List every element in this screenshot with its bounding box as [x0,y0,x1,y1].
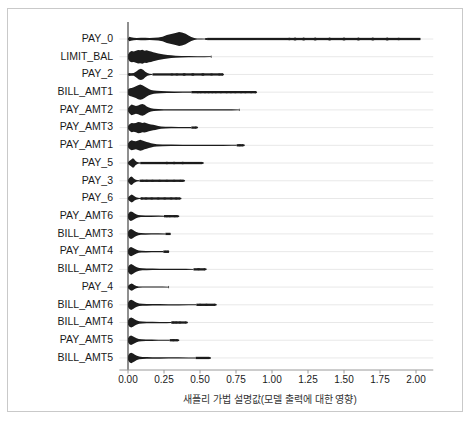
y-axis-label-PAY_AMT3: PAY_AMT3 [60,120,113,132]
outlier-PAY_5-6 [195,162,198,164]
violin-PAY_AMT1 [128,140,237,151]
outlier-BILL_AMT5-1 [203,357,206,359]
outlier-BILL_AMT6-1 [205,304,208,306]
outlier-PAY_AMT6-3 [176,215,179,217]
violin-PAY_0 [128,32,207,46]
outlier-BILL_AMT1-2 [203,91,206,93]
violin-PAY_3 [128,177,140,186]
outlier-PAY_2-7 [221,73,224,75]
outlier-PAY_2-4 [201,73,204,75]
x-tick-label-6: 1.50 [334,374,354,385]
outlier-PAY_5-0 [156,162,159,164]
outlier-PAY_0-7 [342,37,345,40]
shap-summary-figure: 0.000.250.500.751.001.251.501.752.00 PAY… [0,0,472,423]
violin-BILL_AMT5 [128,353,196,364]
outlier-BILL_AMT1-13 [254,91,257,93]
y-axis-label-PAY_5: PAY_5 [82,156,113,168]
violin-PAY_AMT3 [128,122,191,133]
outlier-BILL_AMT1-3 [207,91,210,93]
violin-LIMIT_BAL [128,50,211,64]
outlier-BILL_AMT1-7 [225,91,228,93]
y-axis-label-PAY_3: PAY_3 [82,174,113,186]
outlier-PAY_2-5 [210,73,213,75]
outlier-BILL_AMT1-8 [229,91,232,93]
outlier-PAY_6-4 [163,197,166,199]
outlier-BILL_AMT6-0 [198,304,201,306]
violin-rows-group [128,32,421,363]
x-tick-label-0: 0.00 [118,374,138,385]
outlier-PAY_2-3 [191,73,194,75]
outlier-BILL_AMT6-2 [213,304,216,306]
outlier-PAY_5-4 [181,162,184,164]
y-axis-label-BILL_AMT2: BILL_AMT2 [58,262,114,274]
violin-BILL_AMT1 [128,85,191,100]
outlier-PAY_0-1 [284,38,287,40]
outlier-BILL_AMT4-3 [185,322,188,324]
outlier-PAY_0-11 [397,38,400,41]
outlier-PAY_6-2 [150,197,153,199]
violin-PAY_5 [128,158,140,167]
outlier-PAY_2-0 [170,73,173,75]
violin-BILL_AMT6 [128,300,196,310]
outlier-PAY_0-12 [408,38,411,40]
outlier-PAY_6-7 [178,197,181,199]
outlier-BILL_AMT1-11 [244,91,247,93]
outlier-PAY_0-5 [314,37,317,40]
outlier-PAY_3-3 [158,180,161,182]
outlier-PAY_5-3 [172,162,175,164]
outlier-PAY_5-1 [159,162,162,164]
outlier-BILL_AMT4-2 [178,322,181,324]
outlier-PAY_0-10 [386,37,389,40]
outlier-PAY_2-2 [182,73,185,75]
outlier-PAY_6-5 [170,197,173,199]
y-axis-label-LIMIT_BAL: LIMIT_BAL [60,50,113,62]
outlier-BILL_AMT1-10 [239,91,242,93]
x-tick-label-1: 0.25 [154,374,174,385]
violin-PAY_AMT6 [128,211,164,220]
violin-PAY_6 [128,195,141,203]
outlier-BILL_AMT2-0 [197,268,200,270]
outlier-BILL_AMT2-1 [203,268,206,270]
y-axis-label-PAY_AMT4: PAY_AMT4 [60,244,113,256]
outlier-BILL_AMT1-6 [219,91,222,93]
y-axis-label-PAY_6: PAY_6 [82,191,113,203]
outlier-PAY_AMT5-0 [172,339,175,341]
violin-BILL_AMT4 [128,318,171,328]
x-tick-label-3: 0.75 [226,374,246,385]
violin-tail-PAY_AMT2 [239,109,240,111]
y-axis-label-BILL_AMT5: BILL_AMT5 [58,351,114,363]
outlier-BILL_AMT1-5 [214,91,217,93]
violin-BILL_AMT3 [128,229,165,239]
outlier-PAY_0-0 [205,38,208,40]
outlier-PAY_6-6 [175,197,178,199]
outlier-PAY_AMT1-0 [238,144,241,146]
outlier-PAY_5-5 [188,162,191,164]
violin-tail-PAY_5 [140,162,202,164]
x-tick-label-2: 0.50 [190,374,210,385]
outlier-BILL_AMT1-12 [249,91,252,93]
outlier-PAY_0-6 [328,37,331,40]
x-axis-group: 0.000.250.500.751.001.251.501.752.00 [118,370,433,385]
violin-tail-PAY_4 [168,286,169,288]
outlier-BILL_AMT3-0 [167,233,170,235]
outlier-PAY_3-0 [141,180,144,182]
y-axis-label-BILL_AMT4: BILL_AMT4 [58,315,114,327]
y-axis-label-PAY_AMT5: PAY_AMT5 [60,333,113,345]
outlier-BILL_AMT4-1 [175,322,178,324]
outlier-BILL_AMT5-2 [208,357,211,359]
x-tick-label-7: 1.75 [370,374,390,385]
outlier-BILL_AMT1-4 [211,91,214,93]
outlier-PAY_5-2 [165,162,168,164]
y-axis-label-PAY_0: PAY_0 [82,32,113,44]
violin-tail-BILL_AMT5 [196,357,210,359]
outlier-PAY_5-7 [200,162,203,164]
y-axis-label-PAY_AMT6: PAY_AMT6 [60,209,113,221]
outlier-PAY_0-2 [288,38,291,40]
outlier-PAY_AMT5-1 [176,339,179,341]
y-axis-label-PAY_AMT2: PAY_AMT2 [60,103,113,115]
y-axis-label-BILL_AMT3: BILL_AMT3 [58,227,114,239]
violin-plot-canvas: 0.000.250.500.751.001.251.501.752.00 PAY… [0,0,472,423]
x-tick-label-4: 1.00 [262,374,282,385]
y-axis-label-PAY_2: PAY_2 [82,67,113,79]
y-axis-label-BILL_AMT6: BILL_AMT6 [58,298,114,310]
